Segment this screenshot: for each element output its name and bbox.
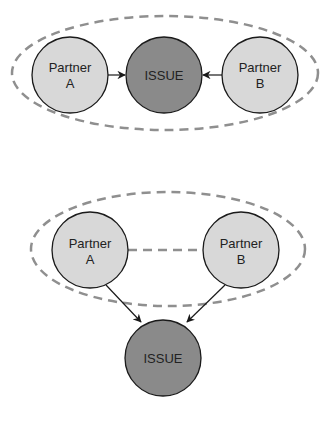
partner-a-line2: A [66,76,75,91]
arrow-a-to-issue [106,285,141,322]
node-partner-b: Partner B [203,212,279,288]
issue-label: ISSUE [143,351,182,366]
partner-b-line1: Partner [239,60,282,75]
partner-b-line2: B [237,252,246,267]
node-partner-b: Partner B [222,37,298,113]
node-issue: ISSUE [126,37,202,113]
arrow-b-to-issue [187,285,225,322]
issue-label: ISSUE [144,68,183,83]
diagram-bottom: Partner A Partner B ISSUE [31,192,305,396]
partner-a-line1: Partner [69,236,112,251]
partner-a-line1: Partner [49,60,92,75]
node-partner-a: Partner A [32,37,108,113]
diagram-top: Partner A ISSUE Partner B [12,16,318,130]
node-issue: ISSUE [125,320,201,396]
node-partner-a: Partner A [52,212,128,288]
partner-b-line1: Partner [220,236,263,251]
diagram-canvas: Partner A ISSUE Partner B Partner A Part… [0,0,332,426]
partner-b-line2: B [256,76,265,91]
partner-a-line2: A [86,252,95,267]
